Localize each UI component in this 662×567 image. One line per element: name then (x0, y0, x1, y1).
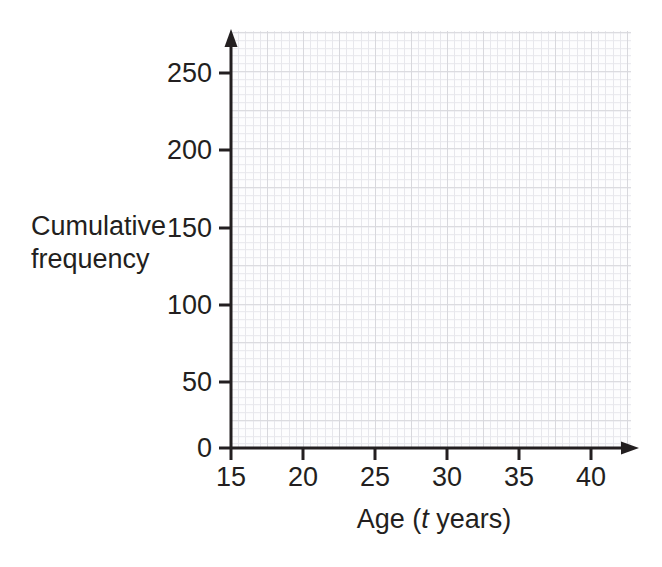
x-tick-label-40: 40 (556, 464, 626, 491)
y-axis-ticks (219, 73, 231, 448)
x-axis-title-after: years) (429, 504, 512, 534)
x-axis-ticks (231, 448, 591, 460)
y-axis-title-line-2: frequency (31, 243, 201, 276)
x-axis-title-variable: t (421, 504, 429, 534)
x-tick-label-15: 15 (196, 464, 266, 491)
y-axis-title: Cumulative frequency (31, 210, 201, 276)
x-axis-arrowhead-icon (621, 442, 639, 455)
y-tick-label-0: 0 (120, 435, 212, 462)
y-tick-label-50: 50 (120, 369, 212, 396)
y-tick-label-100: 100 (120, 292, 212, 319)
y-tick-label-250: 250 (120, 60, 212, 87)
y-axis-arrowhead-icon (225, 29, 238, 47)
cumulative-frequency-graph: 250 200 150 100 50 0 15 20 25 30 35 40 C… (0, 0, 662, 567)
x-axis-title: Age (t years) (231, 504, 637, 535)
y-tick-label-200: 200 (120, 137, 212, 164)
x-tick-label-25: 25 (340, 464, 410, 491)
x-axis-title-before: Age ( (357, 504, 422, 534)
x-tick-label-35: 35 (484, 464, 554, 491)
y-axis-title-line-1: Cumulative (31, 210, 201, 243)
x-tick-label-30: 30 (412, 464, 482, 491)
x-tick-label-20: 20 (268, 464, 338, 491)
